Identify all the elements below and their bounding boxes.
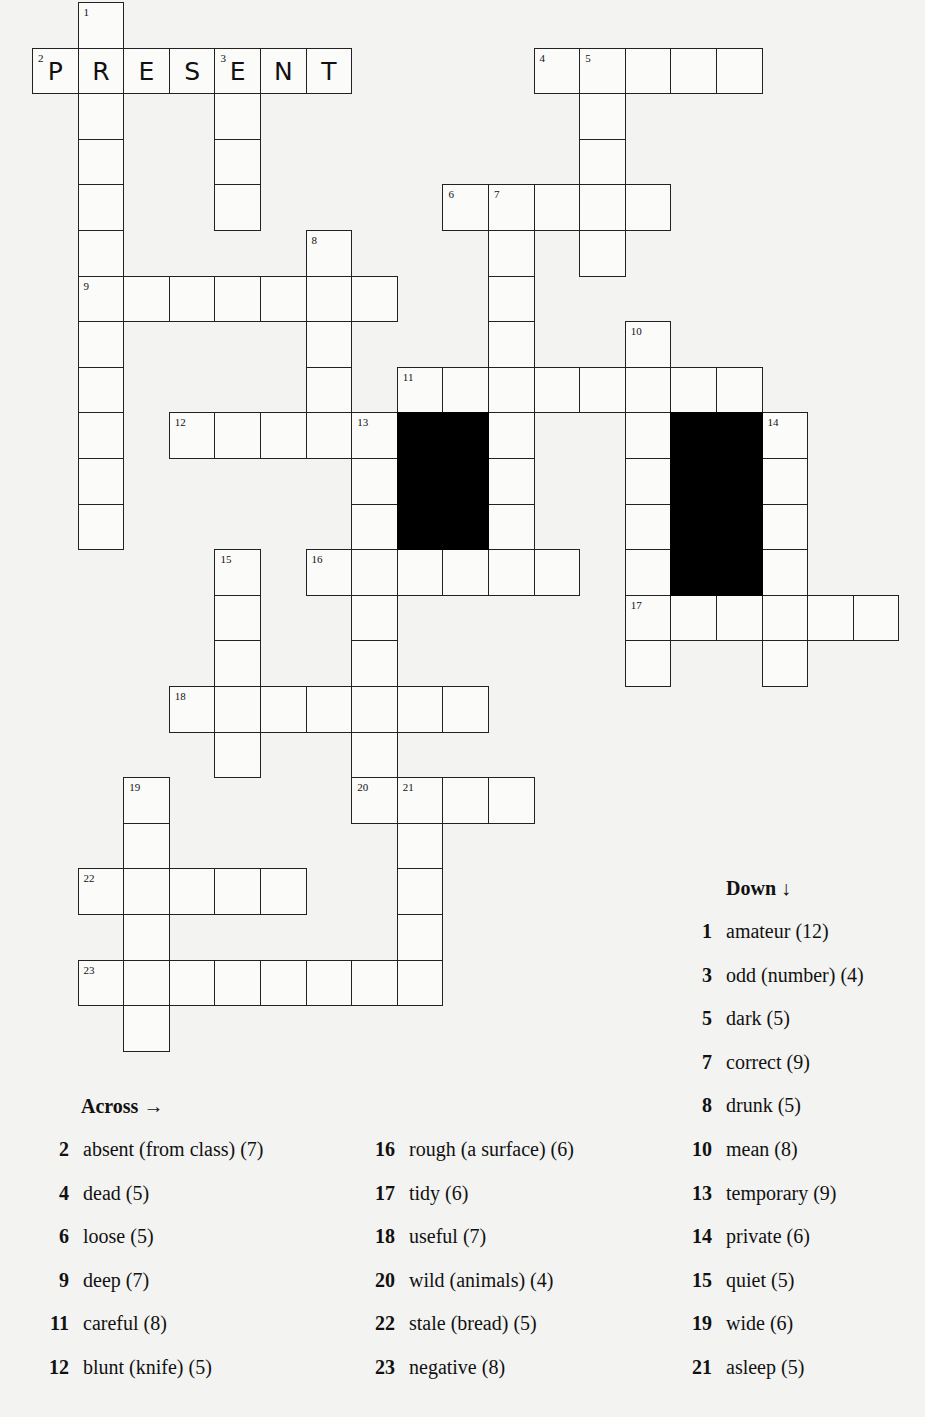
grid-cell[interactable] [488, 230, 535, 277]
grid-cell[interactable]: T [306, 48, 353, 95]
grid-cell[interactable]: 4 [534, 48, 581, 95]
grid-cell[interactable] [78, 458, 125, 505]
grid-cell[interactable] [306, 412, 353, 459]
grid-cell[interactable] [351, 732, 398, 779]
grid-cell[interactable] [306, 367, 353, 414]
grid-cell[interactable] [260, 868, 307, 915]
grid-cell[interactable]: 6 [442, 184, 489, 231]
grid-cell[interactable] [123, 1005, 170, 1052]
grid-cell[interactable] [716, 48, 763, 95]
grid-cell[interactable] [123, 823, 170, 870]
grid-cell[interactable]: 13 [351, 412, 398, 459]
grid-cell[interactable] [214, 412, 261, 459]
grid-cell[interactable] [534, 367, 581, 414]
grid-cell[interactable]: 8 [306, 230, 353, 277]
grid-cell[interactable] [351, 960, 398, 1007]
grid-cell[interactable] [214, 732, 261, 779]
grid-cell[interactable] [807, 595, 854, 642]
grid-cell[interactable] [625, 412, 672, 459]
grid-cell[interactable] [351, 458, 398, 505]
grid-cell[interactable] [488, 276, 535, 323]
grid-cell[interactable]: 16 [306, 549, 353, 596]
grid-cell[interactable] [260, 412, 307, 459]
grid-cell[interactable] [488, 549, 535, 596]
grid-cell[interactable] [488, 504, 535, 551]
grid-cell[interactable] [579, 230, 626, 277]
grid-cell[interactable] [625, 458, 672, 505]
grid-cell[interactable] [169, 868, 216, 915]
grid-cell[interactable] [123, 276, 170, 323]
grid-cell[interactable] [762, 640, 809, 687]
grid-cell[interactable] [762, 595, 809, 642]
grid-cell[interactable] [351, 276, 398, 323]
grid-cell[interactable]: 5 [579, 48, 626, 95]
grid-cell[interactable] [351, 595, 398, 642]
grid-cell[interactable]: S [169, 48, 216, 95]
grid-cell[interactable] [625, 48, 672, 95]
grid-cell[interactable] [488, 412, 535, 459]
grid-cell[interactable] [78, 367, 125, 414]
grid-cell[interactable] [442, 549, 489, 596]
grid-cell[interactable]: 17 [625, 595, 672, 642]
grid-cell[interactable]: 20 [351, 777, 398, 824]
grid-cell[interactable] [579, 367, 626, 414]
grid-cell[interactable] [442, 686, 489, 733]
grid-cell[interactable] [78, 412, 125, 459]
grid-cell[interactable] [716, 367, 763, 414]
grid-cell[interactable] [397, 823, 444, 870]
grid-cell[interactable] [169, 960, 216, 1007]
grid-cell[interactable] [123, 868, 170, 915]
grid-cell[interactable]: 3E [214, 48, 261, 95]
grid-cell[interactable] [762, 504, 809, 551]
grid-cell[interactable] [534, 184, 581, 231]
grid-cell[interactable] [625, 184, 672, 231]
grid-cell[interactable]: 19 [123, 777, 170, 824]
grid-cell[interactable] [579, 184, 626, 231]
grid-cell[interactable] [78, 504, 125, 551]
grid-cell[interactable] [488, 458, 535, 505]
grid-cell[interactable] [670, 367, 717, 414]
grid-cell[interactable] [214, 686, 261, 733]
grid-cell[interactable] [397, 960, 444, 1007]
grid-cell[interactable] [78, 321, 125, 368]
grid-cell[interactable] [169, 276, 216, 323]
grid-cell[interactable] [214, 139, 261, 186]
grid-cell[interactable]: 22 [78, 868, 125, 915]
grid-cell[interactable] [670, 595, 717, 642]
grid-cell[interactable] [853, 595, 900, 642]
grid-cell[interactable]: 11 [397, 367, 444, 414]
grid-cell[interactable] [260, 686, 307, 733]
grid-cell[interactable]: E [123, 48, 170, 95]
grid-cell[interactable] [78, 184, 125, 231]
grid-cell[interactable] [762, 458, 809, 505]
grid-cell[interactable] [214, 640, 261, 687]
grid-cell[interactable]: 10 [625, 321, 672, 368]
grid-cell[interactable] [260, 960, 307, 1007]
grid-cell[interactable] [78, 230, 125, 277]
grid-cell[interactable] [306, 276, 353, 323]
grid-cell[interactable]: R [78, 48, 125, 95]
grid-cell[interactable] [397, 686, 444, 733]
grid-cell[interactable]: 12 [169, 412, 216, 459]
grid-cell[interactable]: 9 [78, 276, 125, 323]
grid-cell[interactable] [625, 549, 672, 596]
grid-cell[interactable] [579, 139, 626, 186]
grid-cell[interactable] [306, 960, 353, 1007]
grid-cell[interactable] [351, 640, 398, 687]
grid-cell[interactable] [716, 595, 763, 642]
grid-cell[interactable] [442, 777, 489, 824]
grid-cell[interactable] [488, 777, 535, 824]
grid-cell[interactable] [442, 367, 489, 414]
grid-cell[interactable] [762, 549, 809, 596]
grid-cell[interactable] [123, 914, 170, 961]
grid-cell[interactable] [78, 93, 125, 140]
grid-cell[interactable] [214, 184, 261, 231]
grid-cell[interactable] [397, 914, 444, 961]
grid-cell[interactable] [579, 93, 626, 140]
grid-cell[interactable] [306, 321, 353, 368]
grid-cell[interactable] [214, 960, 261, 1007]
grid-cell[interactable]: 14 [762, 412, 809, 459]
grid-cell[interactable] [351, 549, 398, 596]
grid-cell[interactable]: 2P [32, 48, 79, 95]
grid-cell[interactable]: 18 [169, 686, 216, 733]
